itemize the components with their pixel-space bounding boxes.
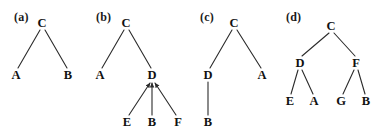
tree-node-d: D bbox=[203, 69, 212, 82]
tree-edge-f-b bbox=[358, 70, 365, 94]
tree-node-e: E bbox=[123, 116, 131, 129]
tree-node-d: D bbox=[147, 69, 156, 82]
panel-label-c: (c) bbox=[200, 10, 214, 25]
tree-edge-c-b bbox=[45, 30, 67, 68]
panel-label-b: (b) bbox=[96, 10, 111, 25]
tree-edge-f-g bbox=[343, 70, 354, 94]
tree-node-b: B bbox=[148, 116, 156, 129]
tree-diagram-figure: (a)CAB(b)CADEBF(c)CDAB(d)CDFEAGB bbox=[0, 0, 388, 136]
tree-node-g: G bbox=[336, 95, 346, 108]
tree-node-b: B bbox=[204, 116, 212, 129]
tree-edge-f-d bbox=[155, 83, 176, 115]
tree-node-a: A bbox=[95, 69, 104, 82]
tree-node-c: C bbox=[229, 17, 238, 30]
tree-node-c: C bbox=[121, 17, 130, 30]
tree-node-a: A bbox=[309, 95, 318, 108]
tree-edge-e-d bbox=[129, 83, 150, 115]
tree-node-c: C bbox=[37, 17, 46, 30]
tree-node-e: E bbox=[286, 95, 294, 108]
tree-node-b: B bbox=[64, 69, 72, 82]
tree-edge-c-d bbox=[210, 30, 232, 68]
tree-edge-c-f bbox=[334, 33, 355, 56]
tree-node-a: A bbox=[257, 69, 266, 82]
tree-node-b: B bbox=[362, 95, 370, 108]
tree-edge-c-a bbox=[18, 30, 40, 68]
tree-node-c: C bbox=[326, 20, 335, 33]
tree-edge-c-d bbox=[302, 33, 329, 56]
panel-label-d: (d) bbox=[286, 10, 301, 25]
tree-edge-d-e bbox=[291, 70, 298, 94]
tree-node-a: A bbox=[11, 69, 20, 82]
tree-node-f: F bbox=[174, 116, 182, 129]
tree-edge-c-d bbox=[129, 30, 151, 68]
tree-node-d: D bbox=[295, 57, 304, 70]
tree-node-f: F bbox=[352, 57, 360, 70]
panel-label-a: (a) bbox=[14, 10, 29, 25]
tree-edge-c-a bbox=[237, 30, 261, 68]
tree-edge-c-a bbox=[102, 30, 124, 68]
tree-edge-d-a bbox=[302, 70, 313, 94]
